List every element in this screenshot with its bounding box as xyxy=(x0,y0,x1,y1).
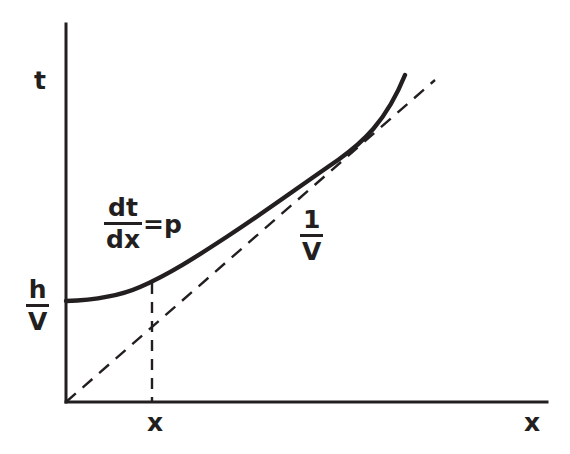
fraction-numerator: h xyxy=(27,276,49,303)
fraction-numerator: 1 xyxy=(301,206,322,233)
fraction-denominator: dx xyxy=(104,226,142,253)
fraction-denominator: V xyxy=(26,308,49,335)
fraction-dt-over-dx: dt dx xyxy=(104,194,142,253)
derivative-equals-p: =p xyxy=(143,212,182,237)
derivative-equation: dt dx =p xyxy=(104,194,182,253)
fraction-denominator: V xyxy=(300,238,323,265)
fraction-h-over-v: h V xyxy=(26,276,49,335)
fraction-one-over-v: 1 V xyxy=(300,206,323,265)
y-axis-label: t xyxy=(34,68,46,93)
travel-time-figure: t x x h V dt dx =p 1 V xyxy=(0,0,570,454)
x-axis-label: x xyxy=(524,410,540,435)
slope-annotation: 1 V xyxy=(300,206,323,265)
intercept-annotation: h V xyxy=(26,276,49,335)
x-tick-label: x xyxy=(147,410,163,435)
travel-time-curve xyxy=(66,75,405,301)
derivative-annotation: dt dx =p xyxy=(104,194,182,253)
plot-canvas xyxy=(0,0,570,454)
fraction-numerator: dt xyxy=(106,194,140,221)
